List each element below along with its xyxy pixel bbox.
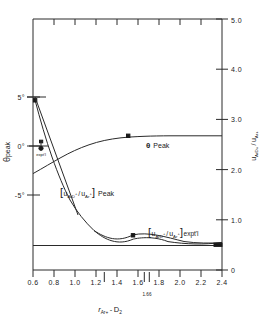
chart-figure: 0.6 0.8 1.0 1.2 1.4 1.6 1.8 2.0 2.2 2.4 … [0,0,266,323]
x-title-tail: - D [108,305,120,314]
bracket-close: ] [92,186,95,198]
left-y-tick-label: 0° [18,143,26,150]
theta-symbol: θ [146,141,150,150]
num-sub: ArD [67,194,74,199]
ratio-peak-curve [35,100,222,244]
left-y-tick-label: -5° [15,192,25,199]
x-tick-label: 0.8 [49,279,60,286]
slash: / [166,230,168,237]
num-sub: ArD [155,234,162,239]
svg-text:θpeak: θpeak [2,141,12,162]
theta-exptl-annotation: expt'l [29,140,48,157]
data-point-marker [131,234,134,237]
x-tick-labels: 0.6 0.8 1.0 1.2 1.4 1.6 1.8 2.0 2.2 2.4 [28,279,228,286]
slash: / [78,190,80,197]
left-y-tick-label: 5° [18,94,26,101]
x-title-sub2: 2 [119,310,122,315]
exptl-point-marker [39,146,43,150]
right-y-tick-label: 4.0 [231,66,242,73]
left-y-tick-labels: 5° 0° -5° [15,94,25,199]
right-y-tick-label: 0 [231,267,235,274]
ratio-exptl-word: expt'l [184,230,200,238]
theta-peak-word: Peak [153,142,169,149]
right-axis-n1sub: ArD+ [254,146,259,157]
x-tick-label: 1.6 [133,279,144,286]
right-y-tick-label: 3.0 [231,116,242,123]
data-point-marker [127,134,130,137]
x-tick-label: 2.0 [175,279,186,286]
x-axis-ticks-top [54,19,201,25]
x-tick-label: 1.8 [154,279,165,286]
x-tick-label: 1.0 [70,279,81,286]
x-tick-label: 0.6 [28,279,39,286]
x-axis-ticks [33,270,222,277]
x-annotation-label: 1.66 [143,292,152,297]
label-ratio-exptl: [uArD+/uAr+]expt'l [148,226,199,239]
right-axis-n2sub: Ar+ [254,131,259,138]
series-theta-peak [33,134,222,174]
right-y-tick-label: 5.0 [231,17,242,24]
svg-text:rAr+ - D2: rAr+ - D2 [98,305,122,315]
x-tick-label: 2.2 [196,279,207,286]
x-tick-label: 2.4 [217,279,228,286]
exptl-end-marker [214,243,222,246]
x-axis-title: rAr+ - D2 [98,305,122,315]
right-y-tick-label: 2.0 [231,167,242,174]
svg-text:θPeak: θPeak [146,141,170,150]
right-y-tick-label: 1.0 [231,217,242,224]
left-y-axis-title: θpeak [2,141,12,162]
x-tick-label: 1.4 [112,279,123,286]
x-tick-label: 1.2 [91,279,102,286]
exptl-point-label: expt'l [36,152,46,157]
ratio-peak-word: Peak [98,190,114,197]
label-theta-peak: θPeak [146,141,170,150]
left-axis-sub: peak [4,141,12,157]
svg-text:uArD+ / uAr+: uArD+ / uAr+ [250,131,259,161]
chart-svg: 0.6 0.8 1.0 1.2 1.4 1.6 1.8 2.0 2.2 2.4 … [0,0,266,323]
right-y-axis-title: uArD+ / uAr+ [250,131,259,161]
right-y-tick-labels: 0 1.0 2.0 3.0 4.0 5.0 [231,17,242,275]
svg-text:[uArD+/uAr+]expt'l: [uArD+/uAr+]expt'l [148,226,199,239]
